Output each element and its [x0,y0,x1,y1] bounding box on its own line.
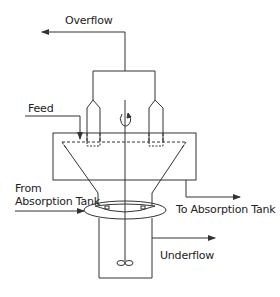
to-absorption-tank-label: To Absorption Tank [176,203,276,216]
to-absorption-pipe [186,180,240,197]
from-absorption-label-line1: From [15,182,41,195]
left-overflow-tube [87,100,100,146]
launder-dashed [62,133,186,148]
overflow-label: Overflow [65,14,113,27]
feed-label: Feed [28,102,53,115]
impeller-icon [117,261,133,266]
thickener-diagram [0,0,280,297]
rotation-arrow-icon [120,113,131,126]
right-overflow-tube [149,100,163,146]
underflow-label: Underflow [160,249,214,262]
overflow-pipe [42,32,155,100]
from-absorption-label-line2: Absorption Tank [15,195,100,208]
